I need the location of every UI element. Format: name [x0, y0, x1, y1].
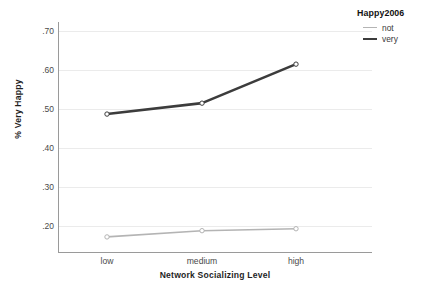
- legend: Happy2006 not very: [357, 8, 425, 44]
- legend-item-not[interactable]: not: [357, 22, 425, 33]
- cropped-title-remnant: [62, 0, 342, 3]
- y-axis-title: % Very Happy: [13, 54, 23, 164]
- x-tick-label-medium: medium: [162, 256, 242, 266]
- legend-item-label: not: [382, 23, 394, 33]
- gridline: [58, 148, 372, 149]
- gridline: [58, 187, 372, 188]
- gridline: [58, 31, 372, 32]
- x-axis-title: Network Socializing Level: [58, 270, 372, 280]
- line-chart: .70 .60 .50 .40 .30 .20 % Very Happy low…: [0, 0, 426, 293]
- gridline: [58, 70, 372, 71]
- plot-area: [58, 22, 372, 252]
- y-tick-label-50: .50: [22, 104, 54, 114]
- y-tick-label-60: .60: [22, 65, 54, 75]
- legend-item-label: very: [382, 34, 398, 44]
- x-tick-label-low: low: [67, 256, 147, 266]
- y-axis-line: [58, 22, 59, 252]
- y-tick-label-30: .30: [22, 182, 54, 192]
- y-tick-label-20: .20: [22, 221, 54, 231]
- gridline: [58, 226, 372, 227]
- y-tick-label-70: .70: [22, 26, 54, 36]
- legend-line-swatch-very-icon: [363, 38, 377, 40]
- y-tick-label-40: .40: [22, 143, 54, 153]
- x-axis-line: [58, 252, 372, 253]
- legend-line-swatch-not-icon: [363, 27, 377, 28]
- x-tick-label-high: high: [256, 256, 336, 266]
- legend-title: Happy2006: [357, 8, 425, 18]
- legend-item-very[interactable]: very: [357, 33, 425, 44]
- gridline: [58, 109, 372, 110]
